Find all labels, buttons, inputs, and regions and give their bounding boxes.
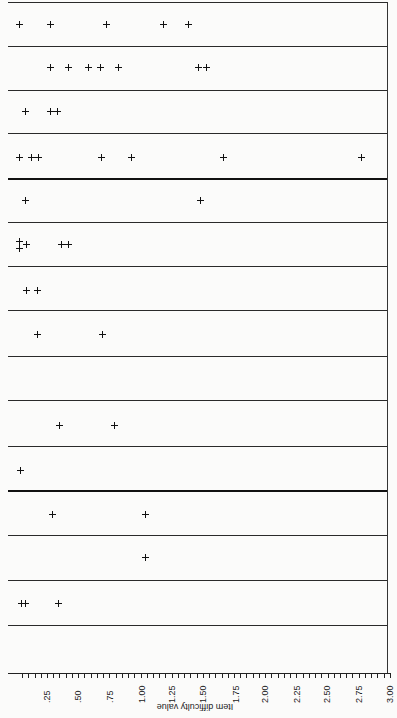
row-separator bbox=[8, 2, 388, 3]
row-separator bbox=[8, 625, 388, 626]
x-tick bbox=[284, 673, 285, 678]
plus-marker-icon bbox=[22, 600, 29, 607]
plus-marker-icon bbox=[98, 154, 105, 161]
plus-marker-icon bbox=[55, 600, 62, 607]
x-tick-label: 3.00 bbox=[385, 681, 395, 703]
plus-marker-icon bbox=[99, 331, 106, 338]
x-tick bbox=[328, 673, 329, 678]
x-tick bbox=[165, 673, 166, 678]
x-tick bbox=[390, 673, 391, 678]
x-tick bbox=[321, 673, 322, 678]
row-separator bbox=[8, 400, 388, 401]
x-tick bbox=[215, 673, 216, 678]
row-separator bbox=[8, 133, 388, 134]
plus-marker-icon bbox=[22, 108, 29, 115]
x-tick bbox=[203, 673, 204, 678]
x-tick bbox=[59, 673, 60, 678]
plus-marker-icon bbox=[220, 154, 227, 161]
plus-marker-icon bbox=[85, 64, 92, 71]
x-tick bbox=[209, 673, 210, 678]
x-tick bbox=[265, 673, 266, 678]
x-tick bbox=[91, 673, 92, 678]
x-tick bbox=[172, 673, 173, 678]
x-tick bbox=[315, 673, 316, 678]
x-tick bbox=[197, 673, 198, 678]
x-tick bbox=[271, 673, 272, 678]
x-tick bbox=[109, 673, 110, 678]
right-border bbox=[387, 2, 388, 674]
x-tick bbox=[246, 673, 247, 678]
row-separator bbox=[8, 356, 388, 357]
plus-marker-icon bbox=[47, 21, 54, 28]
row-separator bbox=[8, 178, 388, 180]
x-tick bbox=[222, 673, 223, 678]
x-tick bbox=[296, 673, 297, 678]
x-tick bbox=[228, 673, 229, 678]
plus-marker-icon bbox=[47, 64, 54, 71]
row-separator bbox=[8, 490, 388, 492]
plus-marker-icon bbox=[115, 64, 122, 71]
plus-marker-icon bbox=[103, 21, 110, 28]
x-tick bbox=[253, 673, 254, 678]
x-tick bbox=[153, 673, 154, 678]
x-tick bbox=[365, 673, 366, 678]
plus-marker-icon bbox=[23, 241, 30, 248]
x-tick bbox=[234, 673, 235, 678]
x-tick bbox=[116, 673, 117, 678]
x-tick bbox=[128, 673, 129, 678]
plus-marker-icon bbox=[16, 154, 23, 161]
x-tick bbox=[159, 673, 160, 678]
plus-marker-icon bbox=[54, 108, 61, 115]
row-separator bbox=[8, 580, 388, 581]
plus-marker-icon bbox=[28, 154, 35, 161]
plus-marker-icon bbox=[65, 64, 72, 71]
x-tick-label: .75 bbox=[105, 681, 115, 703]
x-tick bbox=[147, 673, 148, 678]
plus-marker-icon bbox=[56, 422, 63, 429]
plus-marker-icon bbox=[34, 287, 41, 294]
plus-marker-icon bbox=[142, 554, 149, 561]
plus-marker-icon bbox=[35, 154, 42, 161]
x-tick-label: 1.00 bbox=[137, 681, 147, 703]
plus-marker-icon bbox=[17, 467, 24, 474]
x-tick bbox=[78, 673, 79, 678]
x-tick bbox=[334, 673, 335, 678]
plus-marker-icon bbox=[23, 287, 30, 294]
x-tick bbox=[28, 673, 29, 678]
x-tick bbox=[290, 673, 291, 678]
x-tick bbox=[278, 673, 279, 678]
x-tick bbox=[377, 673, 378, 678]
plus-marker-icon bbox=[185, 21, 192, 28]
row-separator bbox=[8, 90, 388, 91]
row-separator bbox=[8, 446, 388, 447]
x-tick-label: 2.75 bbox=[354, 681, 364, 703]
plus-marker-icon bbox=[16, 21, 23, 28]
plus-marker-icon bbox=[128, 154, 135, 161]
plus-marker-icon bbox=[142, 511, 149, 518]
x-tick bbox=[103, 673, 104, 678]
x-tick bbox=[184, 673, 185, 678]
x-tick bbox=[384, 673, 385, 678]
x-tick bbox=[178, 673, 179, 678]
plus-marker-icon bbox=[111, 422, 118, 429]
x-tick-label: 2.00 bbox=[260, 681, 270, 703]
plus-marker-icon bbox=[197, 197, 204, 204]
x-tick bbox=[122, 673, 123, 678]
x-tick bbox=[66, 673, 67, 678]
x-tick bbox=[240, 673, 241, 678]
plus-marker-icon bbox=[34, 331, 41, 338]
item-difficulty-chart: .25.50.751.001.251.501.752.002.252.502.7… bbox=[0, 0, 397, 718]
x-tick-label: .25 bbox=[42, 681, 52, 703]
plus-marker-icon bbox=[195, 64, 202, 71]
x-tick bbox=[340, 673, 341, 678]
row-separator bbox=[8, 266, 388, 267]
x-tick bbox=[309, 673, 310, 678]
x-tick bbox=[359, 673, 360, 678]
x-tick bbox=[72, 673, 73, 678]
plus-marker-icon bbox=[49, 511, 56, 518]
x-tick bbox=[346, 673, 347, 678]
plus-marker-icon bbox=[160, 21, 167, 28]
x-tick bbox=[35, 673, 36, 678]
x-tick bbox=[22, 673, 23, 678]
x-tick-label: 1.75 bbox=[231, 681, 241, 703]
